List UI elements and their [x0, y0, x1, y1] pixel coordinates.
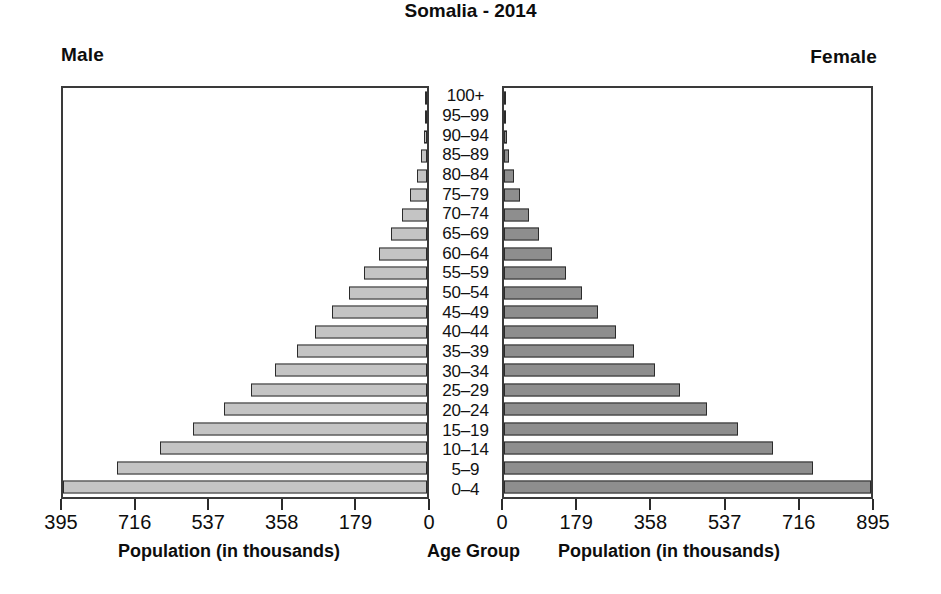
female-bar-30-34 [504, 364, 655, 377]
male-bar-80-84 [417, 169, 427, 182]
female-series-label: Female [810, 46, 877, 68]
male-bar-100plus [425, 91, 427, 104]
female-bar-65-69 [504, 228, 539, 241]
male-bar-45-49 [332, 306, 427, 319]
axis-tick-label: 0 [423, 511, 434, 534]
male-bar-10-14 [160, 442, 427, 455]
female-bar-75-79 [504, 189, 520, 202]
axis-tick-label: 716 [782, 511, 815, 534]
female-bar-90-94 [504, 130, 507, 143]
bar-row [63, 186, 427, 205]
age-group-label: 10–14 [429, 440, 502, 460]
bar-row [504, 224, 871, 243]
bar-row [63, 419, 427, 438]
age-group-label: 30–34 [429, 361, 502, 381]
bar-row [63, 205, 427, 224]
female-bar-95-99 [504, 111, 506, 124]
axis-tick-label: 895 [856, 511, 889, 534]
male-bar-25-29 [251, 383, 427, 396]
age-group-label: 5–9 [429, 460, 502, 480]
male-plot-area [61, 86, 429, 499]
female-bar-50-54 [504, 286, 582, 299]
female-bar-15-19 [504, 422, 738, 435]
male-bar-75-79 [410, 189, 427, 202]
axis-tick [724, 499, 726, 510]
chart-title: Somalia - 2014 [0, 0, 941, 22]
bar-row [504, 302, 871, 321]
male-bar-60-64 [379, 247, 427, 260]
male-bar-95-99 [425, 111, 427, 124]
bar-row [63, 341, 427, 360]
female-bar-55-59 [504, 267, 566, 280]
axis-tick [575, 499, 577, 510]
age-group-label: 50–54 [429, 283, 502, 303]
age-group-label: 85–89 [429, 145, 502, 165]
bar-row [504, 361, 871, 380]
population-pyramid-chart: Male Somalia - 2014 Female 0–45–910–1415… [0, 0, 941, 594]
axis-tick-label: 179 [560, 511, 593, 534]
age-group-label: 20–24 [429, 401, 502, 421]
bar-row [63, 458, 427, 477]
bar-row [504, 147, 871, 166]
male-bar-30-34 [275, 364, 427, 377]
axis-tick-label: 716 [118, 511, 151, 534]
age-group-label: 35–39 [429, 342, 502, 362]
bar-row [504, 244, 871, 263]
bar-row [504, 400, 871, 419]
bar-row [504, 263, 871, 282]
bar-row [63, 166, 427, 185]
male-axis-caption: Population (in thousands) [118, 541, 340, 562]
female-bar-10-14 [504, 442, 773, 455]
age-group-label: 15–19 [429, 420, 502, 440]
bar-row [504, 478, 871, 497]
age-group-label: 65–69 [429, 224, 502, 244]
age-group-label: 40–44 [429, 322, 502, 342]
axis-tick [281, 499, 283, 510]
bar-row [504, 127, 871, 146]
bar-row [504, 341, 871, 360]
male-bar-90-94 [424, 130, 427, 143]
male-bar-15-19 [193, 422, 427, 435]
male-bar-70-74 [402, 208, 427, 221]
bar-row [504, 186, 871, 205]
axis-tick-label: 0 [496, 511, 507, 534]
bar-row [63, 478, 427, 497]
axis-tick [354, 499, 356, 510]
bar-row [63, 439, 427, 458]
female-bar-85-89 [504, 150, 509, 163]
bar-row [504, 88, 871, 107]
bar-row [63, 283, 427, 302]
bar-row [63, 147, 427, 166]
male-bar-40-44 [315, 325, 427, 338]
bar-row [63, 224, 427, 243]
axis-tick [649, 499, 651, 510]
female-bar-45-49 [504, 306, 598, 319]
male-series-label: Male [61, 44, 104, 66]
female-bar-35-39 [504, 344, 634, 357]
female-x-axis: 0179358537716895 [502, 499, 873, 511]
age-group-label: 90–94 [429, 125, 502, 145]
age-group-label: 80–84 [429, 165, 502, 185]
axis-tick [134, 499, 136, 510]
age-group-label: 55–59 [429, 263, 502, 283]
bar-row [504, 283, 871, 302]
male-bar-20-24 [224, 403, 427, 416]
axis-tick [428, 499, 430, 510]
axis-tick-label: 537 [708, 511, 741, 534]
axis-tick-label: 395 [44, 511, 77, 534]
male-bar-50-54 [349, 286, 427, 299]
bar-row [63, 88, 427, 107]
bar-row [63, 400, 427, 419]
bar-row [63, 127, 427, 146]
male-x-axis: 3957165373581790 [61, 499, 429, 511]
bar-row [63, 263, 427, 282]
female-bar-40-44 [504, 325, 616, 338]
age-group-label: 0–4 [429, 479, 502, 499]
male-bar-85-89 [421, 150, 427, 163]
bar-row [63, 108, 427, 127]
age-group-label: 70–74 [429, 204, 502, 224]
female-bar-60-64 [504, 247, 552, 260]
bar-row [63, 380, 427, 399]
bar-row [504, 419, 871, 438]
bar-row [63, 244, 427, 263]
